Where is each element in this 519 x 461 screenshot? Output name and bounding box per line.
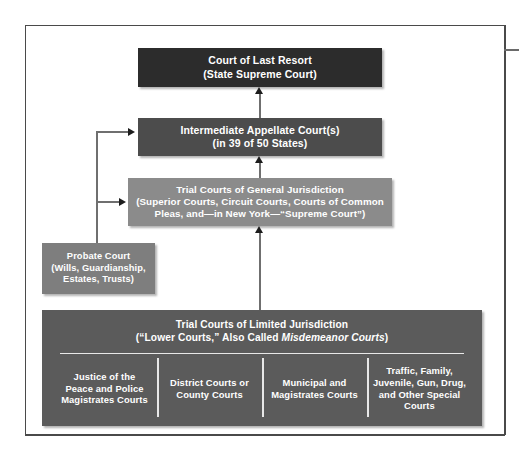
node-probate-line-2: (Wills, Guardianship, [51,263,145,275]
arrowhead-right-to-general-jurisdiction [119,198,126,206]
limited-column-special-courts: Traffic, Family, Juvenile, Gun, Drug, an… [367,354,472,426]
limited-line-2-suffix: ) [385,332,389,343]
node-appellate-line-2: (in 39 of 50 States) [213,137,308,150]
connector-probate-to-general [96,201,120,203]
node-probate-court: Probate Court (Wills, Guardianship, Esta… [42,243,155,294]
limited-col-3-line-3: and Other Special [373,389,466,401]
arrowhead-right-to-appellate-court [128,128,135,136]
node-last-resort-line-1: Court of Last Resort [208,54,312,67]
arrowhead-up-to-appellate-court [255,156,263,163]
limited-col-2-line-2: Magistrates Courts [271,389,358,401]
node-last-resort-line-2: (State Supreme Court) [203,68,317,81]
node-general-line-1: Trial Courts of General Jurisdiction [176,184,343,196]
node-general-line-3: Pleas, and—in New York—“Supreme Court”) [155,208,366,220]
node-probate-line-3: Estates, Trusts) [63,274,134,286]
limited-col-3-line-4: Courts [373,400,466,412]
connector-general-to-appellate [259,163,261,178]
limited-col-2-line-1: Municipal and [271,377,358,389]
limited-col-1-line-2: County Courts [170,389,249,401]
limited-col-0-line-1: Justice of the [61,371,148,383]
connector-limited-to-general [259,233,261,310]
connector-probate-riser [96,131,98,243]
limited-line-2-prefix: (“Lower Courts,” Also Called [136,332,282,343]
limited-col-1-line-1: District Courts or [170,377,249,389]
limited-line-2-italic: Misdemeanor Courts [282,332,385,343]
limited-jurisdiction-header: Trial Courts of Limited Jurisdiction (“L… [42,310,482,353]
limited-column-district-county-courts: District Courts or County Courts [157,354,262,426]
limited-column-municipal-magistrates-courts: Municipal and Magistrates Courts [262,354,367,426]
node-probate-line-1: Probate Court [67,251,130,263]
limited-jurisdiction-columns: Justice of the Peace and Police Magistra… [42,354,482,426]
limited-col-0-line-3: Magistrates Courts [61,394,148,406]
node-trial-courts-general-jurisdiction: Trial Courts of General Jurisdiction (Su… [128,178,392,226]
node-general-line-2: (Superior Courts, Circuit Courts, Courts… [136,196,384,208]
limited-col-3-line-2: Juvenile, Gun, Drug, [373,377,466,389]
connector-appellate-to-last-resort [259,94,261,118]
limited-column-justice-of-the-peace: Justice of the Peace and Police Magistra… [52,354,157,426]
node-intermediate-appellate-court: Intermediate Appellate Court(s) (in 39 o… [138,118,382,156]
arrowhead-up-to-court-of-last-resort [255,87,263,94]
node-limited-line-2: (“Lower Courts,” Also Called Misdemeanor… [48,332,476,345]
node-limited-line-1: Trial Courts of Limited Jurisdiction [48,319,476,332]
court-hierarchy-diagram: Court of Last Resort (State Supreme Cour… [0,0,519,461]
connector-probate-to-appellate [96,131,129,133]
limited-col-3-line-1: Traffic, Family, [373,365,466,377]
node-appellate-line-1: Intermediate Appellate Court(s) [180,124,339,137]
limited-col-0-line-2: Peace and Police [61,383,148,395]
node-trial-courts-limited-jurisdiction: Trial Courts of Limited Jurisdiction (“L… [42,310,482,426]
node-court-of-last-resort: Court of Last Resort (State Supreme Cour… [138,48,382,87]
arrowhead-up-to-general-jurisdiction [255,226,263,233]
